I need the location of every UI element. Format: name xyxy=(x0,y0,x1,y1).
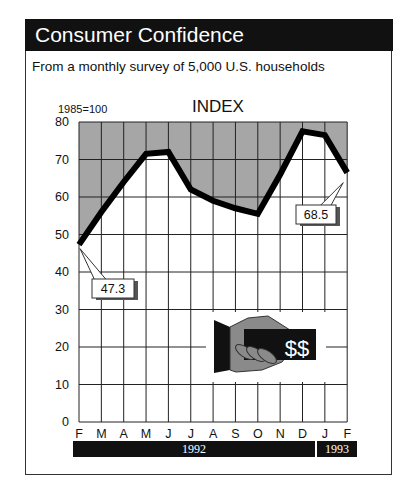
x-tick-label: A xyxy=(209,427,218,441)
year-label-1993: 1993 xyxy=(325,442,349,456)
year-label-1992: 1992 xyxy=(182,442,206,456)
y-tick-label: 20 xyxy=(55,340,69,354)
y-tick-label: 50 xyxy=(55,228,69,242)
callout-label-start: 47.3 xyxy=(101,282,125,296)
x-tick-label: J xyxy=(322,427,328,441)
y-tick-label: 30 xyxy=(55,303,69,317)
y-tick-label: 70 xyxy=(55,153,69,167)
hand-with-money-icon-text: $$ xyxy=(285,336,309,361)
x-tick-label: N xyxy=(276,427,285,441)
y-tick-label: 10 xyxy=(55,378,69,392)
callout-label-end: 68.5 xyxy=(304,208,328,222)
y-tick-label: 40 xyxy=(55,265,69,279)
x-tick-label: O xyxy=(253,427,263,441)
x-tick-label: F xyxy=(343,427,351,441)
x-tick-label: S xyxy=(231,427,239,441)
x-tick-label: M xyxy=(141,427,151,441)
x-tick-label: J xyxy=(165,427,171,441)
x-tick-label: F xyxy=(75,427,83,441)
x-tick-label: J xyxy=(188,427,194,441)
x-tick-label: A xyxy=(120,427,129,441)
line-chart: 01020304050607080FMAMJJASONDJF47.368.5$$… xyxy=(0,0,413,500)
y-tick-label: 0 xyxy=(62,415,69,429)
y-tick-label: 60 xyxy=(55,190,69,204)
y-tick-label: 80 xyxy=(55,115,69,129)
hand-with-money-icon-cuff xyxy=(214,320,230,373)
x-tick-label: M xyxy=(96,427,106,441)
x-tick-label: D xyxy=(298,427,307,441)
